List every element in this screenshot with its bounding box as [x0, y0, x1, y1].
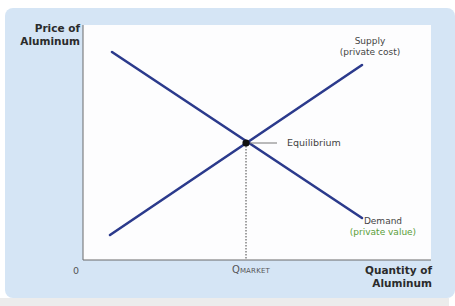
supply-label-line1: Supply	[330, 36, 410, 47]
demand-curve	[112, 52, 362, 218]
origin-label: 0	[73, 265, 79, 276]
equilibrium-label: Equilibrium	[287, 137, 341, 149]
supply-curve	[110, 65, 362, 235]
qmarket-sub: MARKET	[240, 267, 270, 275]
y-axis-title-line1: Price of	[20, 22, 80, 35]
x-axis-title-line2: Aluminum	[340, 277, 432, 290]
y-axis-title: Price of Aluminum	[20, 22, 80, 48]
demand-label: Demand (private value)	[340, 216, 426, 238]
supply-label-line2: (private cost)	[330, 47, 410, 58]
qmarket-main: Q	[232, 264, 240, 275]
x-axis-title: Quantity of Aluminum	[340, 264, 432, 290]
demand-label-line2: (private value)	[340, 227, 426, 238]
y-axis-title-line2: Aluminum	[20, 35, 80, 48]
qmarket-label: QMARKET	[232, 264, 270, 275]
demand-label-line1: Demand	[340, 216, 426, 227]
equilibrium-point	[242, 139, 249, 146]
x-axis-title-line1: Quantity of	[340, 264, 432, 277]
supply-label: Supply (private cost)	[330, 36, 410, 58]
